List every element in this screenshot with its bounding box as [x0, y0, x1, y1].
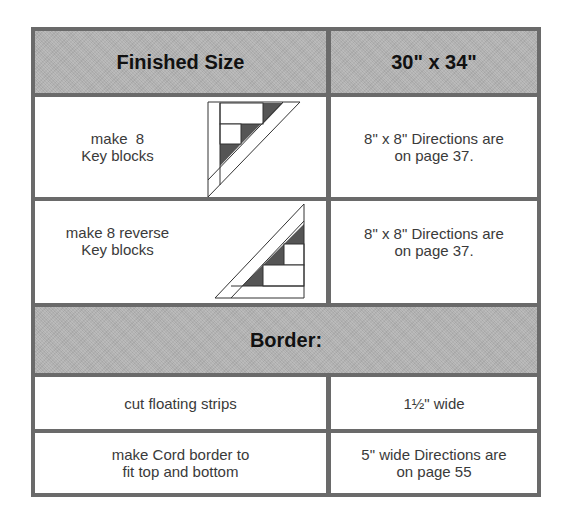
row-reverse-key-blocks-left: make 8 reverse Key blocks [35, 201, 326, 303]
row-cord-border-line1: make Cord border to [112, 446, 250, 463]
row-key-blocks-directions-line1: 8" x 8" Directions are [364, 130, 504, 147]
row-floating-strips-width: 1½" wide [403, 395, 464, 412]
finished-size-table: Finished Size 30" x 34" make 8 Key block… [31, 27, 541, 497]
row-floating-strips-instruction: cut floating strips [124, 395, 237, 412]
row-reverse-key-blocks-line1: make 8 reverse [66, 224, 169, 241]
row-cord-border-directions-line2: on page 55 [396, 463, 471, 480]
row-reverse-key-blocks-directions-line1: 8" x 8" Directions are [364, 225, 504, 242]
key-block-icon [205, 100, 305, 200]
row-floating-strips-left: cut floating strips [35, 377, 326, 429]
header-value-cell: 30" x 34" [331, 31, 537, 93]
row-key-blocks-line1: make 8 [91, 130, 144, 147]
row-reverse-key-blocks-right: 8" x 8" Directions are on page 37. [331, 201, 537, 303]
row-key-blocks-line2: Key blocks [81, 147, 154, 164]
row-cord-border-directions-line1: 5" wide Directions are [361, 446, 506, 463]
row-cord-border-right: 5" wide Directions are on page 55 [331, 433, 537, 493]
row-reverse-key-blocks-directions-line2: on page 37. [394, 242, 473, 259]
border-section-title: Border: [250, 329, 322, 352]
row-key-blocks-left: make 8 Key blocks [35, 97, 326, 197]
row-key-blocks-directions-line2: on page 37. [394, 147, 473, 164]
row-key-blocks-instruction: make 8 Key blocks [35, 97, 200, 197]
row-floating-strips-right: 1½" wide [331, 377, 537, 429]
row-reverse-key-blocks-line2: Key blocks [81, 241, 154, 258]
header-label-cell: Finished Size [35, 31, 326, 93]
row-key-blocks-right: 8" x 8" Directions are on page 37. [331, 97, 537, 197]
reverse-key-block-icon [210, 202, 310, 302]
finished-size-value: 30" x 34" [391, 51, 477, 74]
row-cord-border-line2: fit top and bottom [123, 463, 239, 480]
row-reverse-key-blocks-instruction: make 8 reverse Key blocks [35, 201, 200, 281]
row-cord-border-left: make Cord border to fit top and bottom [35, 433, 326, 493]
border-section-header: Border: [35, 307, 537, 373]
finished-size-label: Finished Size [117, 51, 245, 74]
